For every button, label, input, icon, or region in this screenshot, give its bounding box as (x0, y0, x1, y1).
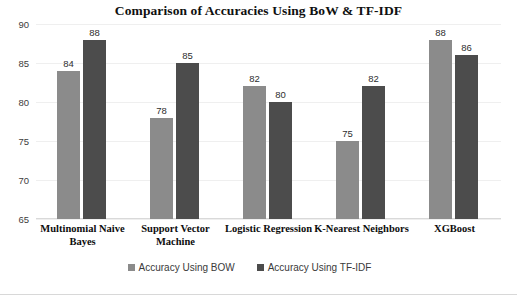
chart-title: Comparison of Accuracies Using BoW & TF-… (0, 3, 517, 19)
bar-value-label: 88 (83, 27, 106, 38)
x-category-label-line: Support Vector (126, 223, 226, 236)
y-axis: 657075808590 (0, 24, 34, 219)
bar-value-label: 82 (243, 73, 266, 84)
x-category-label: Support VectorMachine (126, 223, 226, 248)
x-category-label-line: XGBoost (405, 223, 505, 236)
bar-group: 8280 (222, 24, 315, 219)
bar[interactable] (176, 63, 199, 219)
bar[interactable] (83, 40, 106, 219)
bar-value-label: 80 (269, 89, 292, 100)
bar[interactable] (362, 86, 385, 219)
bar-value-label: 84 (57, 58, 80, 69)
bar-group: 8886 (408, 24, 501, 219)
bar[interactable] (455, 55, 478, 219)
gridline-65 (36, 219, 501, 220)
bar-value-label: 88 (429, 27, 452, 38)
bar-slot: 85 (176, 24, 199, 219)
bar-value-label: 86 (455, 42, 478, 53)
x-category-label: Multinomial NaiveBayes (33, 223, 133, 248)
bar-value-label: 82 (362, 73, 385, 84)
bar-slot: 78 (150, 24, 173, 219)
x-category-label-line: Bayes (33, 236, 133, 249)
x-category-label-line: Machine (126, 236, 226, 249)
bar-slot: 88 (429, 24, 452, 219)
x-category-label-line: Logistic Regression (219, 223, 319, 236)
bar-slot: 80 (269, 24, 292, 219)
chart-legend: Accuracy Using BOWAccuracy Using TF-IDF (0, 262, 517, 273)
x-category-label-line: Multinomial Naive (33, 223, 133, 236)
bar-value-label: 78 (150, 105, 173, 116)
bar[interactable] (429, 40, 452, 219)
legend-item[interactable]: Accuracy Using TF-IDF (257, 262, 372, 273)
bar-slot: 82 (362, 24, 385, 219)
x-category-label: XGBoost (405, 223, 505, 236)
bar-chart-figure: Comparison of Accuracies Using BoW & TF-… (0, 0, 517, 295)
bar-value-label: 75 (336, 128, 359, 139)
bar-slot: 86 (455, 24, 478, 219)
bar-group: 7582 (315, 24, 408, 219)
bar-slot: 75 (336, 24, 359, 219)
y-tick-label-90: 90 (18, 19, 29, 30)
y-tick-label-75: 75 (18, 136, 29, 147)
bar-group: 7885 (129, 24, 222, 219)
bar-value-label: 85 (176, 50, 199, 61)
bar[interactable] (243, 86, 266, 219)
bar[interactable] (269, 102, 292, 219)
legend-item[interactable]: Accuracy Using BOW (128, 262, 235, 273)
y-tick-label-85: 85 (18, 58, 29, 69)
x-category-label-line: K-Nearest Neighbors (312, 223, 412, 236)
bar-slot: 82 (243, 24, 266, 219)
bar-slot: 88 (83, 24, 106, 219)
bar[interactable] (57, 71, 80, 219)
legend-swatch-icon (128, 264, 135, 271)
bar-slot: 84 (57, 24, 80, 219)
y-tick-label-65: 65 (18, 214, 29, 225)
legend-label: Accuracy Using BOW (139, 262, 235, 273)
legend-label: Accuracy Using TF-IDF (268, 262, 372, 273)
y-tick-label-70: 70 (18, 175, 29, 186)
bar[interactable] (150, 118, 173, 219)
y-tick-label-80: 80 (18, 97, 29, 108)
x-axis-category-labels: Multinomial NaiveBayesSupport VectorMach… (36, 223, 501, 257)
legend-swatch-icon (257, 264, 264, 271)
bar-group: 8488 (36, 24, 129, 219)
x-category-label: K-Nearest Neighbors (312, 223, 412, 236)
bar[interactable] (336, 141, 359, 219)
x-category-label: Logistic Regression (219, 223, 319, 236)
plot-area: 84887885828075828886 (36, 24, 501, 219)
